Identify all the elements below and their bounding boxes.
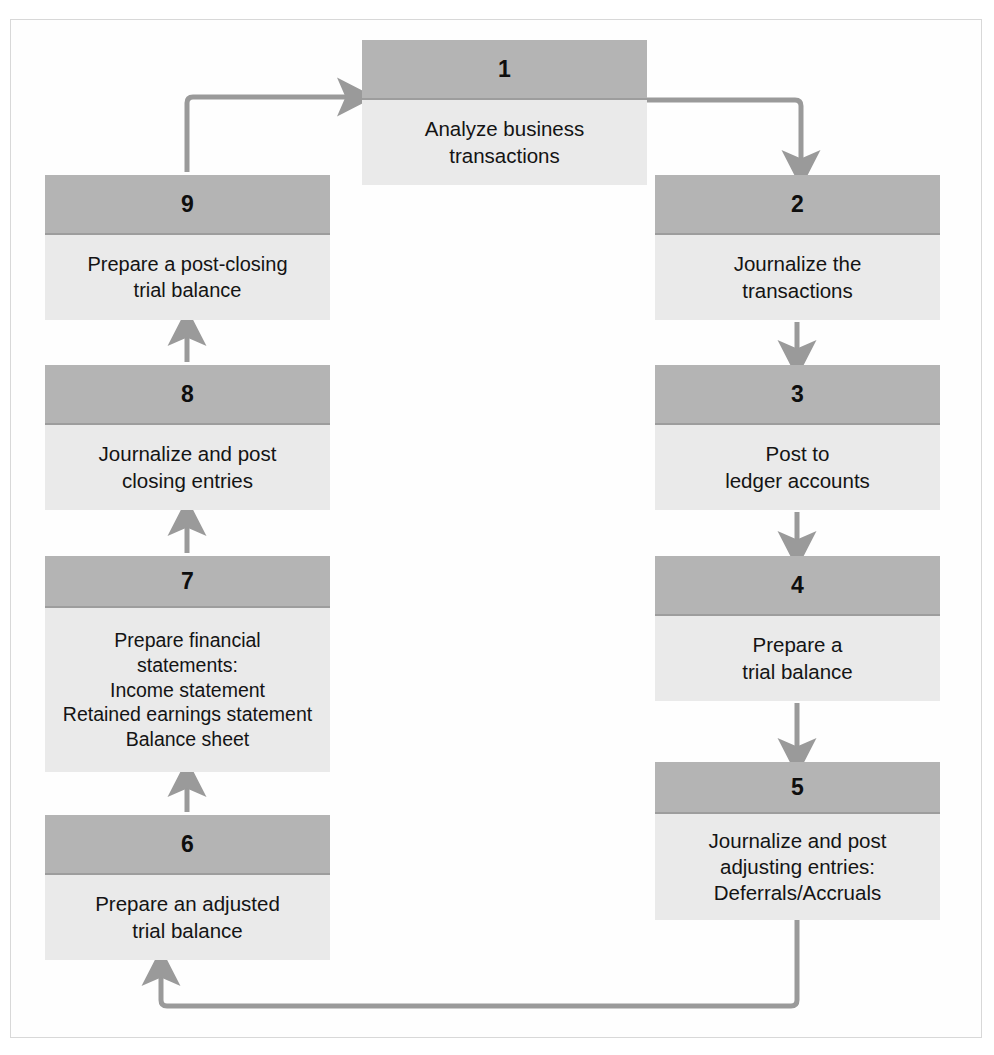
cycle-step-1-number: 1: [498, 58, 511, 81]
cycle-step-3-number: 3: [791, 383, 804, 406]
cycle-step-3-line-1: Post to: [766, 441, 830, 467]
cycle-step-5-number-header: 5: [655, 762, 940, 814]
cycle-step-1-body: Analyze business transactions: [362, 100, 647, 185]
cycle-step-8-line-2: closing entries: [122, 468, 253, 494]
cycle-step-7-line-4: Retained earnings statement: [63, 702, 312, 727]
cycle-step-8-body: Journalize and post closing entries: [45, 425, 330, 510]
cycle-step-5: 5 Journalize and post adjusting entries:…: [655, 762, 940, 920]
cycle-step-3-body: Post to ledger accounts: [655, 425, 940, 510]
cycle-step-8-line-1: Journalize and post: [99, 441, 277, 467]
cycle-step-5-line-3: Deferrals/Accruals: [714, 880, 881, 906]
cycle-step-2-body: Journalize the transactions: [655, 235, 940, 320]
cycle-step-2-line-1: Journalize the: [734, 251, 862, 277]
cycle-step-7-line-2: statements:: [137, 653, 238, 678]
cycle-step-4-body: Prepare a trial balance: [655, 616, 940, 701]
cycle-step-4-number: 4: [791, 574, 804, 597]
cycle-step-7-line-3: Income statement: [110, 678, 265, 703]
cycle-step-5-line-1: Journalize and post: [709, 828, 887, 854]
cycle-step-2: 2 Journalize the transactions: [655, 175, 940, 320]
cycle-step-8: 8 Journalize and post closing entries: [45, 365, 330, 510]
cycle-step-7-line-5: Balance sheet: [126, 727, 250, 752]
cycle-step-2-number: 2: [791, 193, 804, 216]
cycle-step-8-number: 8: [181, 383, 194, 406]
cycle-step-1-line-1: Analyze business: [425, 116, 585, 142]
cycle-step-6: 6 Prepare an adjusted trial balance: [45, 815, 330, 960]
cycle-step-4: 4 Prepare a trial balance: [655, 556, 940, 701]
cycle-step-9-number-header: 9: [45, 175, 330, 235]
cycle-step-5-number: 5: [791, 776, 804, 799]
cycle-step-4-line-1: Prepare a: [752, 632, 842, 658]
cycle-step-1-number-header: 1: [362, 40, 647, 100]
cycle-step-7-line-1: Prepare financial: [114, 628, 260, 653]
cycle-step-9-number: 9: [181, 193, 194, 216]
cycle-step-8-number-header: 8: [45, 365, 330, 425]
cycle-step-4-number-header: 4: [655, 556, 940, 616]
accounting-cycle-diagram: 1 Analyze business transactions 2 Journa…: [0, 0, 994, 1055]
cycle-step-6-line-1: Prepare an adjusted: [95, 891, 280, 917]
cycle-step-1: 1 Analyze business transactions: [362, 40, 647, 185]
cycle-step-5-body: Journalize and post adjusting entries: D…: [655, 814, 940, 920]
cycle-step-9: 9 Prepare a post-closing trial balance: [45, 175, 330, 320]
cycle-step-6-body: Prepare an adjusted trial balance: [45, 875, 330, 960]
cycle-step-3: 3 Post to ledger accounts: [655, 365, 940, 510]
cycle-step-7: 7 Prepare financial statements: Income s…: [45, 556, 330, 772]
cycle-step-6-number-header: 6: [45, 815, 330, 875]
cycle-step-1-line-2: transactions: [449, 143, 560, 169]
cycle-step-7-body: Prepare financial statements: Income sta…: [45, 608, 330, 772]
cycle-step-3-number-header: 3: [655, 365, 940, 425]
cycle-step-9-line-2: trial balance: [134, 278, 242, 304]
cycle-step-6-number: 6: [181, 833, 194, 856]
cycle-step-6-line-2: trial balance: [132, 918, 243, 944]
cycle-step-5-line-2: adjusting entries:: [720, 854, 875, 880]
cycle-step-9-body: Prepare a post-closing trial balance: [45, 235, 330, 320]
cycle-step-3-line-2: ledger accounts: [725, 468, 870, 494]
cycle-step-2-number-header: 2: [655, 175, 940, 235]
cycle-step-2-line-2: transactions: [742, 278, 853, 304]
cycle-step-4-line-2: trial balance: [742, 659, 853, 685]
cycle-step-9-line-1: Prepare a post-closing: [87, 252, 287, 278]
cycle-step-7-number: 7: [181, 570, 194, 593]
cycle-step-7-number-header: 7: [45, 556, 330, 608]
